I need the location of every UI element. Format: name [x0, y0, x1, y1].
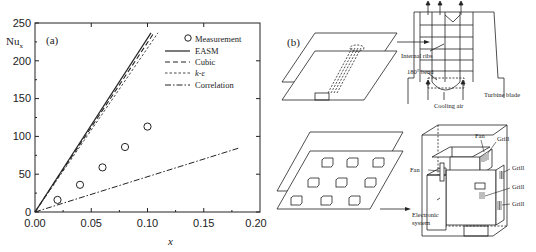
y-axis-ticks [35, 23, 260, 212]
series-cubic [35, 33, 154, 212]
y-tick-50: 50 [19, 168, 31, 180]
measurement-point [144, 123, 151, 130]
x-tick-005: 0.05 [81, 217, 102, 229]
label-fan-top: Fan [475, 132, 486, 139]
label-grill-2: Grill [512, 164, 524, 171]
legend-measurement: Measurement [195, 34, 242, 44]
measurement-point [54, 196, 61, 203]
panel-label-a: (a) [46, 34, 59, 47]
legend-k-epsilon: k-ε [195, 68, 206, 78]
label-internal-ribs: Internal ribs [401, 52, 433, 59]
legend-cubic: Cubic [195, 57, 216, 67]
x-axis-label: x [167, 235, 173, 247]
y-tick-150: 150 [13, 92, 31, 104]
x-tick-010: 0.10 [137, 217, 158, 229]
y-tick-100: 100 [13, 130, 31, 142]
application-diagrams: (b) Inter [270, 0, 536, 252]
label-grill-3: Grill [512, 183, 524, 190]
y-tick-250: 250 [13, 17, 31, 29]
x-tick-020: 0.20 [245, 217, 266, 229]
x-tick-015: 0.15 [193, 217, 214, 229]
series-correlation [35, 148, 240, 212]
y-axis-label: Nux [6, 35, 23, 50]
label-grill-4: Grill [512, 200, 524, 207]
label-electronic: Electronic [412, 211, 439, 218]
measurement-point [121, 143, 128, 150]
arrow-to-turbine [397, 40, 430, 44]
legend-correlation: Correlation [195, 80, 234, 90]
electronic-enclosure-diagram [422, 125, 507, 236]
nusselt-chart: 0 50 100 150 200 250 0.00 0.05 0.10 0.15… [0, 0, 270, 252]
label-180-bend: 180° bend [407, 68, 434, 75]
x-tick-0: 0.00 [24, 217, 45, 229]
label-cooling-air: Cooling air [434, 102, 464, 109]
measurement-point [76, 181, 83, 188]
x-tick-labels: 0.00 0.05 0.10 0.15 0.20 [24, 217, 266, 229]
label-turbine-blade: Turbine blade [484, 91, 520, 98]
panel-label-b: (b) [287, 36, 300, 49]
label-fan-side: Fan [410, 166, 421, 173]
legend-easm: EASM [195, 46, 219, 56]
y-tick-200: 200 [13, 55, 31, 67]
plot-frame [35, 23, 260, 212]
arrow-to-electronics [380, 207, 411, 211]
measurement-point [99, 164, 106, 171]
label-grill-1: Grill [497, 135, 509, 142]
label-system: system [412, 219, 430, 226]
legend: Measurement EASM Cubic k-ε Correlation [165, 34, 242, 90]
series-k-epsilon [35, 33, 158, 212]
legend-marker-measurement [185, 35, 191, 41]
